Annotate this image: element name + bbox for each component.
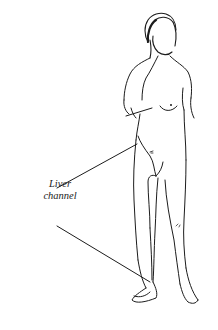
human-figure-illustration [0,0,218,330]
liver-channel-label: Liver channel [30,178,90,202]
shoulders-drawing [124,56,192,100]
diagram-canvas: Liver channel [0,0,218,330]
legs-drawing [134,140,186,288]
leader-line-torso-tip [126,108,152,116]
feet-drawing [132,268,198,303]
torso-drawing [131,104,186,176]
head-drawing [145,13,176,58]
label-line-1: Liver [30,178,90,190]
label-line-2: channel [30,190,90,202]
